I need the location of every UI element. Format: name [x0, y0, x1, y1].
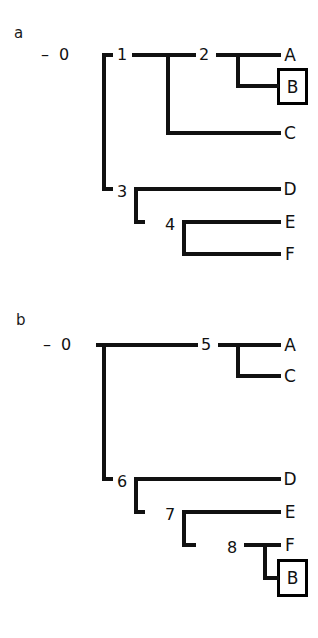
cladogram-branches: [0, 0, 318, 638]
panel-a-branches: [102, 53, 281, 256]
panel-b-branches: [96, 343, 281, 580]
cladogram-figure: a – 0 1 2 3 4 A C D E F B b – 0 5 6 7 8 …: [0, 0, 318, 638]
